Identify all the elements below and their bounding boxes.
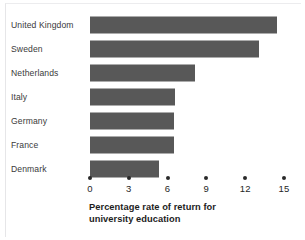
- category-label: Sweden: [11, 44, 43, 54]
- bar-row: Germany: [0, 109, 305, 133]
- category-label: France: [11, 140, 38, 150]
- category-label: Germany: [11, 116, 47, 126]
- x-axis-tick-label: 9: [204, 183, 209, 194]
- x-axis: 03691215: [0, 176, 305, 200]
- bar-row: France: [0, 133, 305, 157]
- bar-netherlands: [90, 65, 195, 82]
- bar-germany: [90, 113, 174, 130]
- x-axis-title: Percentage rate of return for university…: [89, 202, 289, 225]
- bar-italy: [90, 89, 175, 106]
- x-axis-tick-label: 3: [126, 183, 131, 194]
- x-axis-tick-dot: [204, 176, 208, 180]
- x-axis-tick-label: 0: [87, 183, 92, 194]
- bar-row: Sweden: [0, 37, 305, 61]
- bar-france: [90, 137, 174, 154]
- x-axis-tick-label: 6: [165, 183, 170, 194]
- bar-chart-plot: United Kingdom Sweden Netherlands Italy …: [0, 0, 305, 240]
- x-axis-title-line-2: university education: [89, 214, 289, 226]
- category-label: Italy: [11, 92, 27, 102]
- category-label: Netherlands: [11, 68, 58, 78]
- bar-row: United Kingdom: [0, 13, 305, 37]
- x-axis-tick-dot: [127, 176, 131, 180]
- x-axis-title-line-1: Percentage rate of return for: [89, 202, 289, 214]
- x-axis-tick-label: 12: [240, 183, 251, 194]
- x-axis-tick-label: 15: [278, 183, 289, 194]
- x-axis-tick-dot: [282, 176, 286, 180]
- bar-row: Netherlands: [0, 61, 305, 85]
- bar-united-kingdom: [90, 17, 277, 34]
- x-axis-tick-dot: [166, 176, 170, 180]
- bar-sweden: [90, 41, 259, 58]
- x-axis-tick-dot: [243, 176, 247, 180]
- category-label: United Kingdom: [11, 20, 74, 30]
- bar-row: Italy: [0, 85, 305, 109]
- x-axis-tick-dot: [88, 176, 92, 180]
- category-label: Denmark: [11, 164, 47, 174]
- bar-denmark: [90, 161, 159, 178]
